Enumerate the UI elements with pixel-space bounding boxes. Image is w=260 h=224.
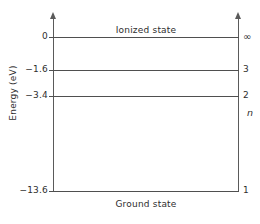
n-value-label: 1 (243, 185, 249, 195)
y-tick-mark (49, 96, 54, 97)
n-value-label: 3 (243, 64, 249, 74)
level-line (53, 96, 239, 97)
y-tick-label: −3.4 (25, 90, 48, 100)
energy-level-diagram: Energy (eV) n Ionized state Ground state… (0, 0, 260, 224)
y-tick-mark (49, 70, 54, 71)
y-tick-label: −13.6 (19, 185, 48, 195)
right-axis-arrow-icon (235, 12, 241, 19)
right-quantum-number-axis (238, 19, 239, 192)
y-tick-mark (49, 37, 54, 38)
y-tick-mark (49, 191, 54, 192)
right-axis-title: n (247, 107, 253, 118)
level-line (53, 70, 239, 71)
level-line (53, 37, 239, 38)
left-axis-arrow-icon (50, 12, 56, 19)
y-tick-label: −1.6 (25, 64, 48, 74)
n-value-label: ∞ (243, 31, 251, 42)
n-value-label: 2 (243, 90, 249, 100)
level-line (53, 191, 239, 192)
y-tick-label: 0 (42, 31, 48, 41)
ionized-state-label: Ionized state (53, 25, 239, 35)
left-energy-axis (53, 19, 54, 192)
y-axis-title: Energy (eV) (8, 63, 18, 123)
ground-state-label: Ground state (53, 199, 239, 209)
